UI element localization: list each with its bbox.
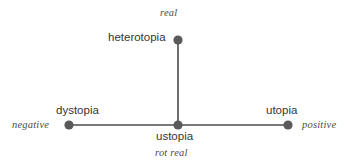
axis-label-not-real: rot real xyxy=(155,148,188,159)
node-label-dystopia: dystopia xyxy=(56,105,99,117)
node-dot-ustopia[interactable] xyxy=(173,120,182,129)
node-dot-dystopia[interactable] xyxy=(64,120,73,129)
axis-label-negative: negative xyxy=(12,120,49,131)
axis-label-real: real xyxy=(160,8,177,19)
axis-label-positive: positive xyxy=(302,120,336,131)
node-label-heterotopia: heterotopia xyxy=(108,32,166,44)
ustopia-axis-diagram: real rot real negative positive heteroto… xyxy=(0,0,352,167)
node-dot-heterotopia[interactable] xyxy=(173,35,182,44)
node-label-ustopia: ustopia xyxy=(156,131,193,143)
node-dot-utopia[interactable] xyxy=(283,120,292,129)
node-label-utopia: utopia xyxy=(266,105,297,117)
